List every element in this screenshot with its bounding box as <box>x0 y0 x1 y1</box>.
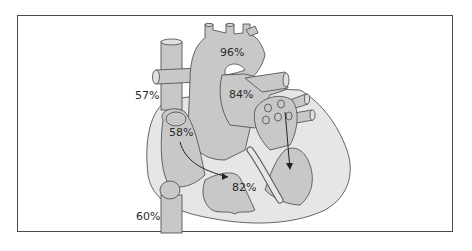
inferior-vena-cava <box>161 195 182 233</box>
label-right-ventricle: 82% <box>232 182 256 193</box>
label-aorta: 96% <box>220 47 244 58</box>
label-inferior-vena-cava: 60% <box>136 211 160 222</box>
label-pulmonary-artery: 84% <box>229 89 253 100</box>
label-superior-vena-cava: 57% <box>135 90 159 101</box>
heart-illustration <box>0 0 472 251</box>
label-right-atrium: 58% <box>169 127 193 138</box>
